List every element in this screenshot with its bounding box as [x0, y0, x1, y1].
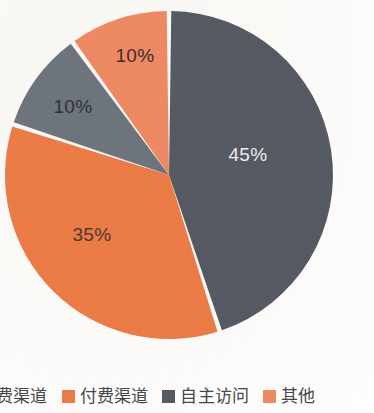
legend-item-4[interactable]: 其他 — [263, 388, 315, 405]
legend-label-1: 费渠道 — [0, 388, 48, 405]
page-background: 45%35%10%10% 费渠道付费渠道自主访问其他 — [0, 0, 374, 413]
legend-swatch-icon-2 — [62, 390, 75, 403]
legend-item-1[interactable]: 费渠道 — [0, 388, 48, 405]
legend-item-2[interactable]: 付费渠道 — [62, 388, 149, 405]
legend-label-3: 自主访问 — [180, 388, 249, 405]
legend-swatch-icon-4 — [263, 390, 276, 403]
legend-item-3[interactable]: 自主访问 — [162, 388, 249, 405]
pie-chart: 45%35%10%10% — [0, 0, 374, 372]
legend-label-4: 其他 — [281, 388, 315, 405]
slice-percent-label-4: 10% — [115, 45, 154, 67]
legend-label-2: 付费渠道 — [80, 388, 149, 405]
pie-svg — [0, 0, 374, 372]
legend-swatch-icon-3 — [162, 390, 175, 403]
slice-percent-label-1: 45% — [228, 144, 267, 166]
slice-percent-label-2: 35% — [72, 224, 111, 246]
chart-legend: 费渠道付费渠道自主访问其他 — [0, 380, 374, 413]
slice-percent-label-3: 10% — [53, 96, 92, 118]
